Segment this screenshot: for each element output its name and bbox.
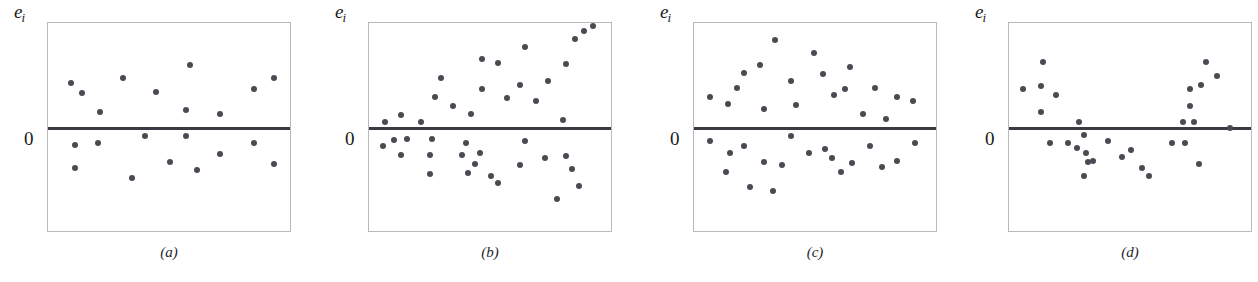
data-point [382, 119, 388, 125]
data-point [576, 183, 582, 189]
data-point [772, 37, 778, 43]
data-point [194, 167, 200, 173]
data-point [793, 102, 799, 108]
data-point [894, 158, 900, 164]
data-point [563, 61, 569, 67]
data-point [1038, 109, 1044, 115]
data-point [1187, 86, 1193, 92]
data-point [1074, 145, 1080, 151]
plot-frame [693, 22, 937, 232]
data-point [1053, 92, 1059, 98]
data-point [912, 140, 918, 146]
data-point [847, 64, 853, 70]
data-point [129, 175, 135, 181]
zero-reference-line [48, 127, 290, 130]
data-point [450, 103, 456, 109]
y-axis-label-subscript: i [982, 10, 986, 25]
data-point [707, 94, 713, 100]
y-axis-label: ei [335, 2, 346, 24]
data-point [1203, 59, 1209, 65]
data-point [187, 62, 193, 68]
data-point [477, 150, 483, 156]
data-point [563, 153, 569, 159]
data-point [398, 112, 404, 118]
data-point [788, 78, 794, 84]
residual-panel-b: ei0(b) [321, 0, 635, 282]
residual-plot-figure: ei0(a)ei0(b)ei0(c)ei0(d) [0, 0, 1258, 282]
data-point [465, 170, 471, 176]
data-point [569, 166, 575, 172]
y-axis-label-subscript: i [667, 10, 671, 25]
zero-reference-line [369, 127, 611, 130]
data-point [1119, 154, 1125, 160]
data-point [590, 23, 596, 29]
data-point [545, 78, 551, 84]
data-point [829, 155, 835, 161]
data-point [495, 180, 501, 186]
data-point [741, 70, 747, 76]
data-point [1047, 140, 1053, 146]
data-point [183, 133, 189, 139]
page-bleed-text [0, 258, 1258, 282]
data-point [1038, 83, 1044, 89]
data-point [734, 85, 740, 91]
data-point [542, 155, 548, 161]
data-point [1020, 86, 1026, 92]
data-point [432, 94, 438, 100]
data-point [438, 75, 444, 81]
data-point [806, 150, 812, 156]
data-point [468, 111, 474, 117]
data-point [1090, 158, 1096, 164]
data-point [822, 146, 828, 152]
data-point [1227, 125, 1233, 131]
data-point [271, 75, 277, 81]
data-point [217, 111, 223, 117]
plot-frame [368, 22, 612, 232]
zero-tick-label: 0 [985, 129, 995, 148]
data-point [788, 133, 794, 139]
data-point [504, 95, 510, 101]
data-point [142, 133, 148, 139]
residual-panel-a: ei0(a) [0, 0, 314, 282]
zero-reference-line [1009, 127, 1251, 130]
data-point [860, 111, 866, 117]
data-point [404, 136, 410, 142]
data-point [707, 138, 713, 144]
data-point [757, 62, 763, 68]
data-point [572, 36, 578, 42]
data-point [1081, 132, 1087, 138]
y-axis-label: ei [14, 2, 25, 24]
data-point [1187, 103, 1193, 109]
data-point [1146, 173, 1152, 179]
data-point [1105, 138, 1111, 144]
data-point [418, 119, 424, 125]
data-point [427, 152, 433, 158]
data-point [1040, 59, 1046, 65]
data-point [820, 71, 826, 77]
data-point [391, 137, 397, 143]
data-point [761, 159, 767, 165]
data-point [427, 171, 433, 177]
data-point [271, 161, 277, 167]
data-point [522, 44, 528, 50]
data-point [1180, 119, 1186, 125]
data-point [517, 82, 523, 88]
data-point [1196, 161, 1202, 167]
data-point [79, 90, 85, 96]
residual-panel-c: ei0(c) [646, 0, 960, 282]
data-point [72, 142, 78, 148]
data-point [560, 117, 566, 123]
data-point [495, 60, 501, 66]
data-point [811, 50, 817, 56]
data-point [770, 188, 776, 194]
data-point [463, 140, 469, 146]
y-axis-label: ei [660, 2, 671, 24]
data-point [1065, 140, 1071, 146]
data-point [725, 101, 731, 107]
data-point [167, 159, 173, 165]
data-point [1128, 147, 1134, 153]
y-axis-label: ei [975, 2, 986, 24]
data-point [1139, 165, 1145, 171]
zero-reference-line [694, 127, 936, 130]
data-point [183, 107, 189, 113]
